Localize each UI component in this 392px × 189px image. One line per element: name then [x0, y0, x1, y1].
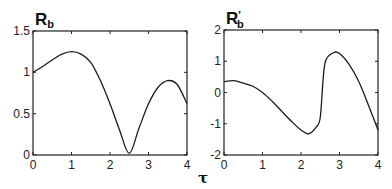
y-tick-label: 2 [214, 23, 221, 37]
chart-title: R'b [226, 9, 244, 30]
chart-title: Rb [35, 10, 54, 30]
x-tick-label: 0 [30, 158, 37, 172]
x-tick-label: 4 [375, 158, 382, 172]
x-tick-label: 4 [184, 158, 191, 172]
y-tick-label: 0 [23, 148, 30, 162]
x-tick-label: 2 [298, 158, 305, 172]
y-tick-label: 1 [214, 54, 221, 68]
data-line [33, 52, 187, 154]
plot-area-frame [33, 31, 187, 155]
chart-figure: 0123400.511.5Rb01234-2-1012R'bτ [0, 0, 392, 189]
x-tick-label: 0 [221, 158, 228, 172]
y-tick-label: -1 [210, 117, 221, 131]
y-tick-label: 0.5 [13, 107, 30, 121]
x-tick-label: 1 [68, 158, 75, 172]
x-tick-label: 1 [259, 158, 266, 172]
chart-panel-2: 01234-2-1012R'bτ [198, 9, 382, 187]
y-tick-label: 0 [214, 86, 221, 100]
y-tick-label: 1 [23, 65, 30, 79]
x-tick-label: 2 [107, 158, 114, 172]
plot-area-frame [224, 30, 378, 155]
x-axis-label: τ [198, 169, 208, 187]
y-tick-label: -2 [210, 148, 221, 162]
x-tick-label: 3 [145, 158, 152, 172]
chart-panel-1: 0123400.511.5Rb [13, 10, 190, 172]
x-tick-label: 3 [336, 158, 343, 172]
y-tick-label: 1.5 [13, 24, 30, 38]
data-line [224, 52, 378, 134]
